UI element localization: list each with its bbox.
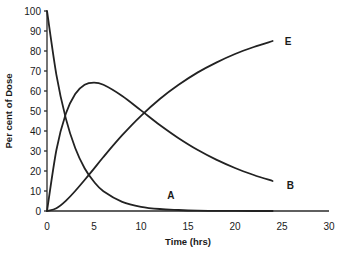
- y-tick-label: 30: [30, 146, 42, 157]
- x-axis: 051015202530: [44, 211, 335, 232]
- x-tick-label: 20: [229, 221, 241, 232]
- y-tick-label: 50: [30, 106, 42, 117]
- y-tick-label: 80: [30, 46, 42, 57]
- x-tick-label: 0: [44, 221, 50, 232]
- curve-a: [47, 11, 273, 211]
- series-label-a: A: [167, 190, 174, 201]
- y-tick-label: 20: [30, 166, 42, 177]
- series-label-b: B: [287, 180, 294, 191]
- x-tick-label: 25: [276, 221, 288, 232]
- curve-b: [47, 83, 273, 211]
- curves: [47, 11, 273, 211]
- y-tick-label: 10: [30, 186, 42, 197]
- y-tick-label: 100: [24, 6, 41, 17]
- series-labels: ABE: [167, 36, 294, 201]
- y-tick-label: 70: [30, 66, 42, 77]
- pharmacokinetic-line-chart: 0102030405060708090100 051015202530 ABE …: [0, 0, 344, 258]
- x-axis-title: Time (hrs): [165, 236, 211, 247]
- y-axis-title: Per cent of Dose: [3, 74, 14, 149]
- y-axis: 0102030405060708090100: [24, 6, 47, 217]
- y-tick-label: 40: [30, 126, 42, 137]
- series-label-e: E: [285, 36, 292, 47]
- y-tick-label: 0: [35, 206, 41, 217]
- x-tick-label: 10: [135, 221, 147, 232]
- x-tick-label: 15: [182, 221, 194, 232]
- x-tick-label: 30: [323, 221, 335, 232]
- y-tick-label: 60: [30, 86, 42, 97]
- x-tick-label: 5: [91, 221, 97, 232]
- y-tick-label: 90: [30, 26, 42, 37]
